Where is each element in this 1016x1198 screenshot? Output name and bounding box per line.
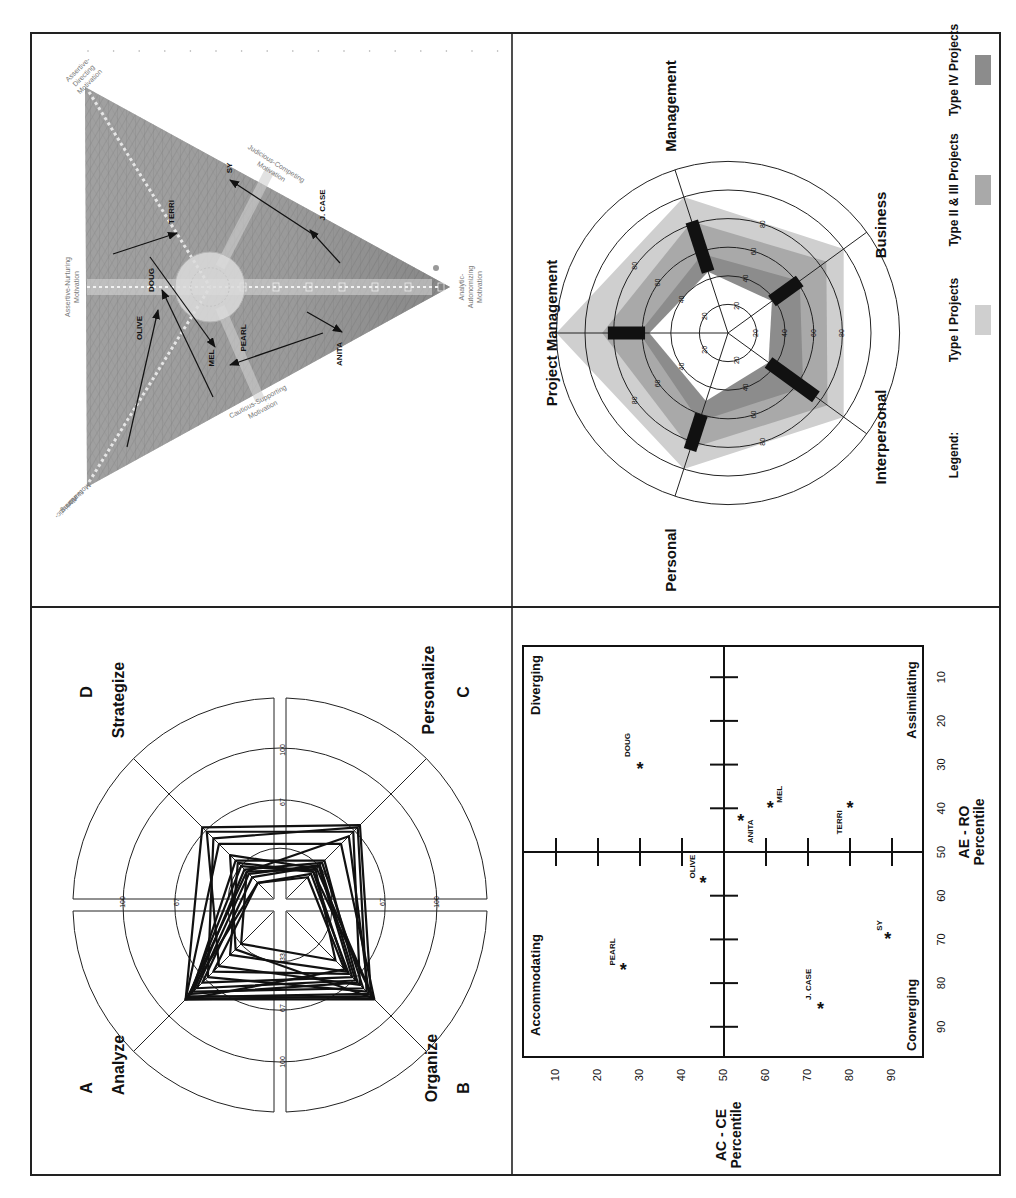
ring-tick-label: 80 xyxy=(631,262,638,270)
arrow-label: J. CASE xyxy=(318,189,327,221)
tick-label: 100 xyxy=(279,1056,286,1068)
arrow-label: ANITA xyxy=(335,342,344,366)
x-axis-title: AC - CE xyxy=(713,1109,729,1161)
ring-tick-label: 20 xyxy=(733,302,740,310)
y-tick-label: 70 xyxy=(935,933,947,945)
edge-label-assertive-nurturing: Assertive-Nurturing xyxy=(64,257,72,317)
x-tick-label: 60 xyxy=(759,1069,771,1081)
quadrant-name-analyze: Analyze xyxy=(110,1035,127,1096)
figure: Assertive-DirectingMotivationAltruistic-… xyxy=(0,0,1016,1198)
quadrant-name-strategize: Strategize xyxy=(110,662,127,739)
center-circle xyxy=(175,252,245,322)
axis-label-personal: Personal xyxy=(662,528,679,591)
ring-tick-label: 20 xyxy=(752,329,759,337)
data-point-doug: * xyxy=(636,759,643,779)
ring-tick-label: 80 xyxy=(759,438,766,446)
point-label: PEARL xyxy=(608,938,617,965)
ring-tick-label: 20 xyxy=(701,346,708,354)
data-point-anita: * xyxy=(737,811,744,831)
tick-label: 100 xyxy=(433,896,440,908)
y-tick-label: 50 xyxy=(935,846,947,858)
point-label: J. CASE xyxy=(804,968,813,1000)
triangle-chart: Assertive-DirectingMotivationAltruistic-… xyxy=(53,50,498,520)
ring-tick-label: 80 xyxy=(631,396,638,404)
arrow-label: OLIVE xyxy=(135,315,144,340)
point-label: DOUG xyxy=(623,733,632,757)
tick-label: 67 xyxy=(379,898,386,906)
point-label: OLIVE xyxy=(688,854,697,879)
x-tick-label: 80 xyxy=(843,1069,855,1081)
legend-label: Type II & III Projects xyxy=(947,133,961,246)
legend-title: Legend: xyxy=(947,432,961,479)
arrow-label: DOUG xyxy=(147,268,156,292)
quadrant-letter-c: C xyxy=(455,686,472,698)
y-axis-title-line2: Percentile xyxy=(971,798,987,865)
point-label: SY xyxy=(875,919,884,930)
x-axis-title-line2: Percentile xyxy=(728,1101,744,1168)
ring-tick-label: 40 xyxy=(742,275,749,283)
tick-label: 67 xyxy=(173,898,180,906)
point-label: ANITA xyxy=(746,819,755,843)
axis-label-interpersonal: Interpersonal xyxy=(872,389,889,484)
ring-tick-label: 80 xyxy=(759,220,766,228)
label: Motivation xyxy=(65,482,93,510)
vertex-label-analytic-autonomizing: Analytic- xyxy=(458,273,466,301)
x-tick-label: 70 xyxy=(801,1069,813,1081)
quadrant-name-organize: Organize xyxy=(423,1034,440,1103)
y-tick-label: 20 xyxy=(935,715,947,727)
data-point-mel: * xyxy=(767,798,774,818)
pentagon-radar-chart: 2040608020406080204060802040608020406080… xyxy=(543,23,991,591)
arrow-label: MEL xyxy=(207,349,216,366)
y-tick-label: 40 xyxy=(935,802,947,814)
ring-tick-label: 20 xyxy=(733,356,740,364)
ring-tick-label: 40 xyxy=(678,295,685,303)
x-tick-label: 10 xyxy=(549,1069,561,1081)
x-tick-label: 90 xyxy=(885,1069,897,1081)
point-label: TERRI xyxy=(835,810,844,834)
tick-label: 33 xyxy=(279,953,286,961)
ring-tick-label: 20 xyxy=(701,312,708,320)
quadrant-letter-b: B xyxy=(455,1082,472,1094)
label: Motivation xyxy=(476,271,483,303)
ring-tick-label: 60 xyxy=(654,279,661,287)
data-point-sy: * xyxy=(884,929,891,949)
abcd-radar-chart: 1006733671001006767100AAnalyzeBOrganizeC… xyxy=(73,645,487,1112)
arrow-label: TERRI xyxy=(167,200,176,224)
ring-tick-label: 40 xyxy=(678,363,685,371)
point-label: MEL xyxy=(775,786,784,803)
y-axis-title: AE - RO xyxy=(956,805,972,858)
quadrant-letter-d: D xyxy=(78,686,95,698)
arrow-label: SY xyxy=(225,162,234,173)
legend-swatch xyxy=(975,55,991,85)
tick-label: 67 xyxy=(279,1004,286,1012)
quadrant-label-accommodating: Accommodating xyxy=(528,934,543,1036)
data-point-jcase: * xyxy=(817,999,824,1019)
x-tick-label: 50 xyxy=(717,1069,729,1081)
tick-label: 100 xyxy=(119,896,126,908)
x-tick-label: 30 xyxy=(633,1069,645,1081)
x-tick-label: 40 xyxy=(675,1069,687,1081)
arrow-label: PEARL xyxy=(239,324,248,351)
data-point-olive: * xyxy=(699,873,706,893)
y-tick-label: 60 xyxy=(935,890,947,902)
axis-label-management: Management xyxy=(662,60,679,152)
y-tick-label: 80 xyxy=(935,977,947,989)
x-tick-label: 20 xyxy=(591,1069,603,1081)
ring-tick-label: 60 xyxy=(750,247,757,255)
y-tick-label: 90 xyxy=(935,1021,947,1033)
legend-label: Type I Projects xyxy=(947,277,961,362)
y-tick-label: 10 xyxy=(935,671,947,683)
quadrant-label-diverging: Diverging xyxy=(528,655,543,715)
y-tick-label: 30 xyxy=(935,758,947,770)
tick-label: 100 xyxy=(279,744,286,756)
quadrant-letter-a: A xyxy=(78,1082,95,1094)
axis-label-project-management: Project Management xyxy=(543,260,560,407)
ring-tick-label: 40 xyxy=(781,329,788,337)
label: Motivation xyxy=(73,271,80,303)
ring-tick-label: 60 xyxy=(750,411,757,419)
label: Autonomizing xyxy=(467,266,475,309)
axis-label-business: Business xyxy=(872,192,889,259)
quadrant-name-personalize: Personalize xyxy=(420,645,437,734)
ring-tick-label: 40 xyxy=(742,383,749,391)
quadrant-label-converging: Converging xyxy=(904,979,919,1051)
